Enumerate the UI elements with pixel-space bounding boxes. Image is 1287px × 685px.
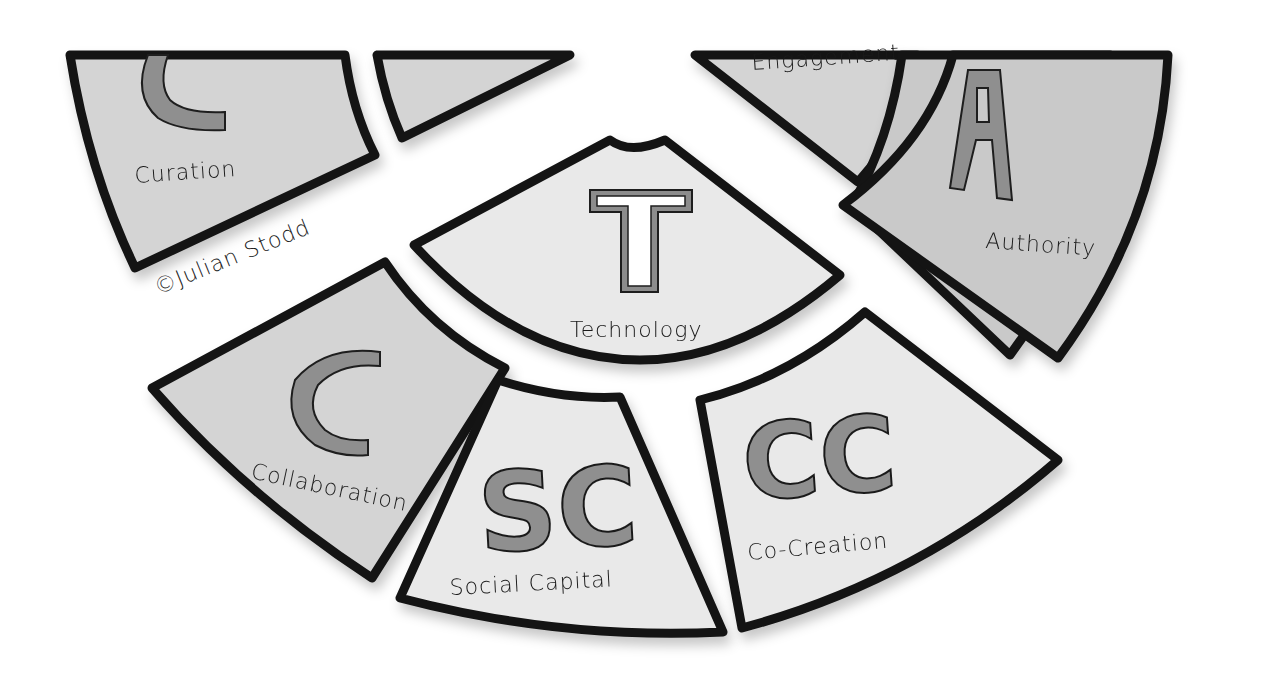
- technology-label: Technology: [570, 317, 702, 342]
- co-creation-letter-icon: CC: [738, 392, 900, 524]
- social-capital-letter-icon: SC: [475, 442, 641, 578]
- segment-curation: Curation: [70, 55, 375, 268]
- segment-authority: Authority: [843, 55, 1168, 358]
- segment-top-left-partial: [377, 55, 570, 138]
- segment-technology: Technology: [414, 140, 840, 360]
- diagram-canvas: Curation Engagement Authority Technology…: [0, 0, 1287, 685]
- segment-co-creation: CC Co-Creation: [700, 312, 1058, 628]
